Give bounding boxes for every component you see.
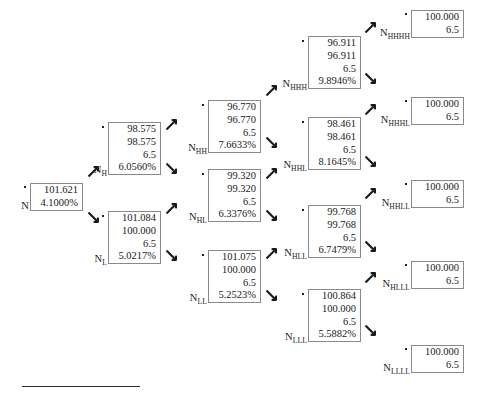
node-value: 96.911 [312, 50, 356, 63]
tree-node-NHL: NHL99.32099.3206.56.3376% [208, 169, 261, 222]
node-bullet-NLLLL [405, 348, 407, 350]
edge-arrow-NHL-to-NHHL [266, 168, 277, 179]
node-value: 100.000 [312, 303, 356, 316]
node-value: 6.5 [212, 196, 256, 209]
node-value: 6.5 [112, 149, 156, 162]
node-value: 6.0560% [112, 161, 156, 174]
node-value: 6.5 [312, 144, 356, 157]
node-value: 100.000 [415, 181, 459, 194]
node-label-subscript: HLLL [390, 283, 410, 292]
node-value: 9.8946% [312, 75, 356, 88]
node-label-subscript: L [102, 258, 107, 267]
node-value: 101.621 [34, 184, 78, 197]
node-label-NHHL: NHHL [283, 159, 307, 170]
node-bullet-NHHLL [405, 183, 407, 185]
node-bullet-NHHL [302, 121, 304, 123]
node-value: 6.3376% [212, 208, 256, 221]
node-box-NLLLL: 100.0006.5 [411, 345, 464, 373]
node-label-base: N [188, 142, 196, 153]
node-bullet-NHHHL [405, 100, 407, 102]
edge-arrow-NHHL-to-NHHHL [365, 104, 376, 115]
node-bullet-NHLLL [405, 264, 407, 266]
node-value: 5.2523% [212, 289, 256, 302]
tree-node-NLLL: NLLL100.864100.0006.55.5882% [308, 289, 361, 342]
node-label-NHL: NHL [189, 211, 207, 222]
edge-arrow-N-to-NH [88, 166, 99, 177]
node-value: 5.0217% [112, 250, 156, 263]
tree-node-NHLLL: NHLLL100.0006.5 [411, 261, 464, 289]
node-label-NL: NL [95, 253, 107, 264]
node-value: 6.5 [415, 24, 459, 37]
node-box-NLL: 101.075100.0006.55.2523% [208, 250, 261, 303]
tree-node-NL: NL101.084100.0006.55.0217% [108, 211, 161, 264]
tree-node-NLLLL: NLLLL100.0006.5 [411, 345, 464, 373]
node-label-N: N [21, 200, 29, 211]
node-value: 7.6633% [212, 139, 256, 152]
figure-canvas: N101.6214.1000%NH98.57598.5756.56.0560%N… [0, 0, 477, 393]
node-label-subscript: HHH [290, 83, 307, 92]
node-box-NHHH: 96.91196.9116.59.8946% [308, 36, 361, 89]
tree-node-NHHH: NHHH96.91196.9116.59.8946% [308, 36, 361, 89]
node-value: 6.5 [312, 63, 356, 76]
edge-arrow-NHH-to-NHHL [266, 137, 277, 148]
node-label-NHHHH: NHHHH [380, 27, 410, 38]
node-label-base: N [283, 159, 291, 170]
node-value: 6.5 [312, 316, 356, 329]
node-label-subscript: LLLL [391, 367, 410, 376]
node-value: 98.575 [112, 136, 156, 149]
node-label-subscript: HHHL [389, 119, 411, 128]
edge-arrow-NLL-to-NLLL [266, 290, 277, 301]
node-box-NHHHH: 100.0006.5 [411, 10, 464, 38]
node-box-NLLL: 100.864100.0006.55.5882% [308, 289, 361, 342]
node-value: 98.461 [312, 118, 356, 131]
node-box-NH: 98.57598.5756.56.0560% [108, 122, 161, 175]
edge-arrow-NHHH-to-NHHHH [365, 22, 376, 33]
node-bullet-NL [102, 215, 104, 217]
node-box-NHH: 96.77096.7706.57.6633% [208, 100, 261, 153]
node-value: 99.768 [312, 206, 356, 219]
node-value: 101.084 [112, 212, 156, 225]
node-label-subscript: HL [197, 216, 207, 225]
node-value: 98.575 [112, 123, 156, 136]
node-label-NHLL: NHLL [284, 247, 307, 258]
edge-arrow-NLL-to-NHLL [266, 248, 277, 259]
node-value: 5.5882% [312, 328, 356, 341]
tree-node-NHHLL: NHHLL100.0006.5 [411, 180, 464, 208]
node-label-NLLL: NLLL [285, 331, 307, 342]
edge-arrow-NHL-to-NHLL [266, 210, 277, 221]
node-box-NHHLL: 100.0006.5 [411, 180, 464, 208]
node-value: 99.320 [212, 170, 256, 183]
node-label-subscript: HH [196, 147, 207, 156]
node-value: 6.5 [415, 111, 459, 124]
footer-rule [22, 386, 140, 387]
node-value: 6.5 [212, 127, 256, 140]
node-box-NHLL: 99.76899.7686.56.7479% [308, 205, 361, 258]
node-box-NHLLL: 100.0006.5 [411, 261, 464, 289]
node-bullet-N [24, 186, 26, 188]
edge-arrow-NHHL-to-NHHLL [365, 156, 376, 167]
node-label-base: N [284, 247, 292, 258]
edge-arrow-NL-to-NHL [166, 203, 177, 214]
node-label-base: N [285, 331, 293, 342]
node-value: 6.5 [415, 359, 459, 372]
edge-arrow-NLLL-to-NHLLL [365, 272, 376, 283]
tree-node-N: N101.6214.1000% [30, 183, 83, 211]
node-bullet-NHHH [302, 40, 304, 42]
tree-node-NHHHL: NHHHL100.0006.5 [411, 97, 464, 125]
node-value: 4.1000% [34, 197, 78, 210]
node-value: 6.5 [415, 194, 459, 207]
node-bullet-NHH [202, 104, 204, 106]
node-label-base: N [383, 362, 391, 373]
node-label-subscript: HHL [291, 164, 307, 173]
edge-arrow-NLLL-to-NLLLL [365, 325, 376, 336]
node-value: 100.000 [415, 98, 459, 111]
edge-arrow-NHH-to-NHHH [266, 85, 277, 96]
node-value: 6.7479% [312, 244, 356, 257]
tree-node-NHHL: NHHL98.46198.4616.58.1645% [308, 117, 361, 170]
node-value: 8.1645% [312, 156, 356, 169]
node-label-base: N [380, 27, 388, 38]
node-bullet-NHL [202, 173, 204, 175]
node-label-subscript: LLL [293, 336, 307, 345]
node-value: 99.768 [312, 219, 356, 232]
node-label-NHH: NHH [188, 142, 207, 153]
